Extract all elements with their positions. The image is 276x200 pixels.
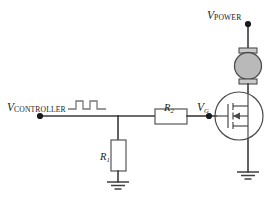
mosfet-symbol [215,92,263,140]
r1-branch [111,116,126,182]
label-v-controller-subscript: CONTROLLER [14,105,66,114]
label-r1: R1 [100,147,110,163]
label-v-gate: VG [197,98,209,114]
dc-motor-symbol [235,48,262,92]
mosfet-body-arrow [233,113,240,120]
label-v-controller: VCONTROLLER [7,98,66,114]
power-terminal-dot [245,21,251,27]
r1-resistor-body [111,140,126,171]
label-v-controller-symbol: V [7,101,14,113]
label-v-power: VPOWER [207,6,241,22]
motor-rotor-circle [235,53,262,80]
label-v-gate-subscript: G [204,107,209,114]
label-r2-subscript: 2 [170,107,173,114]
pwm-pulse-train-icon [68,101,106,109]
label-v-power-subscript: POWER [214,13,241,22]
label-r1-subscript: 1 [106,156,109,163]
label-r2: R2 [164,98,174,114]
circuit-diagram: VCONTROLLER VPOWER VG R1 R2 [0,0,276,200]
label-v-gate-symbol: V [197,101,204,113]
ground-right-icon [237,172,259,179]
label-v-power-symbol: V [207,9,214,21]
ground-left-icon [107,182,129,189]
